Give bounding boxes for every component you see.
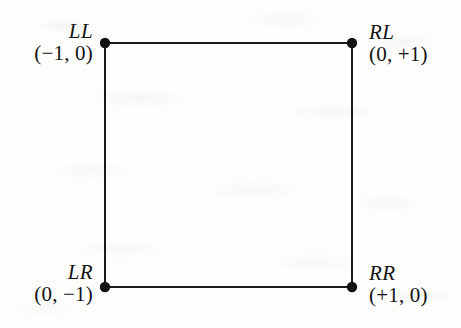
vertex-dot-RL: [347, 38, 357, 48]
vertex-dot-LL: [100, 38, 110, 48]
vertex-name-LR: LR: [34, 262, 93, 284]
vertex-label-RR: RR (+1, 0): [369, 263, 428, 307]
figure-canvas: LL (−1, 0) RL (0, +1) LR (0, −1) RR (+1,…: [0, 0, 461, 328]
vertex-name-RL: RL: [369, 22, 428, 44]
square-edges: [105, 43, 352, 287]
vertex-label-LR: LR (0, −1): [34, 262, 93, 306]
square-vertices: [100, 38, 357, 292]
vertex-coord-RL: (0, +1): [369, 44, 428, 66]
vertex-label-LL: LL (−1, 0): [34, 21, 93, 65]
vertex-coord-LL: (−1, 0): [34, 43, 93, 65]
vertex-dot-RR: [347, 282, 357, 292]
vertex-coord-LR: (0, −1): [34, 284, 93, 306]
vertex-name-LL: LL: [34, 21, 93, 43]
vertex-label-RL: RL (0, +1): [369, 22, 428, 66]
vertex-dot-LR: [100, 282, 110, 292]
vertex-coord-RR: (+1, 0): [369, 285, 428, 307]
vertex-name-RR: RR: [369, 263, 428, 285]
